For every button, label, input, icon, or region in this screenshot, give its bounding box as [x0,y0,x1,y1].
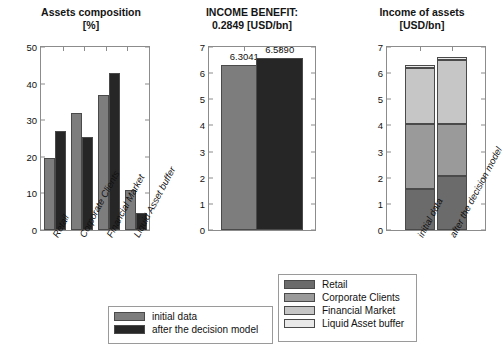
legend-assets-label: Liquid Asset buffer [322,318,404,329]
legend-assets-label: Financial Market [322,305,395,316]
chart3-ytick-label: 2 [378,172,383,183]
chart3-ytick-mark-right [481,230,485,231]
chart3-ytick-label: 4 [378,120,383,131]
chart2-ytick-mark [209,73,213,74]
chart1-title-block: Assets composition [%] [16,6,166,31]
chart1-ytick-mark-right [145,156,149,157]
chart2-ytick-mark-right [311,73,315,74]
chart2-ytick-label: 5 [200,94,205,105]
chart2-subtitle: 0.2849 [USD/bn] [182,19,322,32]
chart1-ytick-mark [41,120,45,121]
legend-models-label: after the decision model [152,324,258,335]
chart1-ytick-mark [41,83,45,84]
chart3-title: Income of assets [352,6,492,19]
chart2-bar-value-label: 6.5890 [265,44,294,55]
chart3-ytick-mark-right [481,203,485,204]
chart1-ytick-label: 40 [26,78,37,89]
chart3-subtitle: [USD/bn] [352,19,492,32]
chart1-subtitle: [%] [16,19,166,32]
legend-assets-swatch [284,293,315,302]
chart1-title: Assets composition [16,6,166,19]
chart1-ytick-label: 0 [32,225,37,236]
chart3-stack-segment [437,60,467,124]
chart1-bar [71,113,82,230]
chart3-ytick-label: 0 [378,225,383,236]
legend-assets-label: Retail [322,279,348,290]
chart2-bar-value-label: 6.3041 [230,51,259,62]
chart3-ytick-mark-right [481,47,485,48]
legend-assets-swatch [284,319,315,328]
chart1-xtick-mark [63,47,64,51]
chart2-ytick-mark [209,99,213,100]
legend-assets-item: Retail [284,278,411,291]
chart2-ytick-label: 6 [200,68,205,79]
chart3-ytick-mark [387,230,391,231]
chart1-ytick-label: 20 [26,151,37,162]
chart3-stack-segment [437,57,467,60]
legend-models-item: initial data [114,310,267,323]
chart2-ytick-label: 4 [200,120,205,131]
legend-assets-label: Corporate Clients [322,292,400,303]
chart2-ytick-mark-right [311,47,315,48]
legend-models-item: after the decision model [114,323,267,336]
chart1-ytick-mark-right [145,120,149,121]
chart3-ytick-mark-right [481,151,485,152]
chart3-ytick-mark [387,73,391,74]
chart1-ytick-mark-right [145,83,149,84]
chart3-ytick-mark [387,177,391,178]
legend-assets-swatch [284,306,315,315]
chart2-ytick-label: 2 [200,172,205,183]
chart2-ytick-mark [209,125,213,126]
chart3-ytick-mark-right [481,125,485,126]
chart2-ytick-mark-right [311,151,315,152]
chart3-ytick-label: 1 [378,198,383,209]
chart3-stack-segment [437,124,467,176]
chart3-stack-segment [405,65,435,68]
chart1-ytick-mark-right [145,193,149,194]
chart3-ytick-mark [387,99,391,100]
legend-assets-swatch [284,280,315,289]
legend-models-label: initial data [152,311,197,322]
chart3-title-block: Income of assets [USD/bn] [352,6,492,31]
legend-assets-item: Financial Market [284,304,411,317]
chart1-ytick-label: 10 [26,188,37,199]
chart3-ytick-label: 5 [378,94,383,105]
chart2-ytick-mark [209,203,213,204]
chart2-bar [256,58,303,230]
chart2-ytick-mark [209,151,213,152]
chart3-ytick-mark [387,151,391,152]
legend-asset-classes: RetailCorporate ClientsFinancial MarketL… [278,274,417,342]
chart2-ytick-label: 0 [200,225,205,236]
chart1-ytick-mark-right [145,47,149,48]
legend-models-swatch [114,312,145,321]
chart3-stack-segment [405,68,435,124]
chart3-ytick-mark-right [481,99,485,100]
chart1-ytick-mark [41,47,45,48]
chart2-ytick-mark [209,177,213,178]
chart2-ytick-mark-right [311,177,315,178]
chart2-plot-area: 012345676.30416.5890 [208,46,316,231]
chart2-ytick-mark-right [311,203,315,204]
chart2-title-block: INCOME BENEFIT: 0.2849 [USD/bn] [182,6,322,31]
chart1-xtick-mark [84,47,85,51]
chart2-title: INCOME BENEFIT: [182,6,322,19]
chart2-ytick-mark-right [311,230,315,231]
chart3-xtick-mark [420,47,421,51]
chart2-ytick-label: 1 [200,198,205,209]
chart1-xtick-mark [106,47,107,51]
chart3-xtick-mark [452,47,453,51]
chart3-ytick-mark [387,47,391,48]
chart1-bar [44,158,55,230]
chart3-ytick-label: 6 [378,68,383,79]
chart2-ytick-label: 3 [200,146,205,157]
legend-assets-item: Corporate Clients [284,291,411,304]
chart3-ytick-label: 3 [378,146,383,157]
chart2-ytick-mark [209,230,213,231]
chart2-ytick-mark-right [311,99,315,100]
chart2-ytick-mark-right [311,125,315,126]
chart3-ytick-mark [387,125,391,126]
legend-assets-item: Liquid Asset buffer [284,317,411,330]
chart2-ytick-mark [209,47,213,48]
chart1-ytick-label: 30 [26,115,37,126]
legend-models: initial dataafter the decision model [108,306,273,344]
